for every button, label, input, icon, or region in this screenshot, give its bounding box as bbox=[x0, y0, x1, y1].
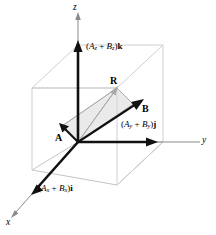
z-comp-plus: + bbox=[97, 41, 107, 51]
z-component-arrowhead bbox=[73, 40, 82, 52]
x-axis-arrowhead bbox=[11, 210, 18, 218]
y-component-arrowhead bbox=[146, 138, 158, 147]
x-comp-plus: + bbox=[49, 183, 59, 193]
y-comp-plus: + bbox=[132, 119, 142, 129]
box-bottom-face bbox=[32, 142, 163, 185]
vector-diagram-figure: z y x R A B (Az + Bz)k (Ay + By)j (Ax + … bbox=[0, 0, 216, 235]
y-component-label: (Ay + By)j bbox=[121, 120, 156, 130]
z-component-label: (Az + Bz)k bbox=[86, 42, 123, 52]
y-comp-unit-vector: j bbox=[153, 119, 156, 129]
x-component-label: (Ax + Bx)i bbox=[38, 184, 73, 194]
z-comp-unit-vector: k bbox=[118, 41, 123, 51]
box-edge-bottom-right bbox=[117, 142, 163, 185]
z-axis-arrowhead bbox=[75, 12, 81, 20]
x-axis-label: x bbox=[6, 218, 10, 228]
y-axis-label: y bbox=[202, 136, 206, 146]
vector-r-label: R bbox=[110, 76, 117, 86]
z-axis-label: z bbox=[73, 3, 77, 13]
vector-diagram-canvas bbox=[0, 0, 216, 235]
x-comp-unit-vector: i bbox=[70, 183, 73, 193]
vector-a-label: A bbox=[55, 133, 62, 143]
vector-b-label: B bbox=[142, 104, 149, 114]
x-component-vector bbox=[38, 142, 78, 187]
